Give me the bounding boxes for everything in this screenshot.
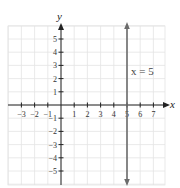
svg-text:−1: −1 xyxy=(48,114,57,123)
line-label: x = 5 xyxy=(131,65,154,77)
svg-text:4: 4 xyxy=(112,110,116,119)
y-axis-label: y xyxy=(56,10,62,22)
svg-text:−2: −2 xyxy=(48,127,57,136)
vertical-line-x-5 xyxy=(124,22,130,186)
svg-text:−2: −2 xyxy=(30,110,39,119)
svg-text:1: 1 xyxy=(72,110,76,119)
svg-text:4: 4 xyxy=(53,48,57,57)
x-axis-label: x xyxy=(169,98,175,110)
svg-text:−4: −4 xyxy=(48,154,57,163)
svg-text:5: 5 xyxy=(53,35,57,44)
svg-text:2: 2 xyxy=(85,110,89,119)
svg-text:7: 7 xyxy=(151,110,155,119)
svg-text:2: 2 xyxy=(53,75,57,84)
svg-text:3: 3 xyxy=(99,110,103,119)
svg-text:3: 3 xyxy=(53,61,57,70)
svg-text:1: 1 xyxy=(53,88,57,97)
coordinate-plane: −3−2−1123456754321−1−2−3−4−5 x y x = 5 xyxy=(0,0,180,188)
svg-text:6: 6 xyxy=(138,110,142,119)
svg-text:−5: −5 xyxy=(48,167,57,176)
svg-text:−3: −3 xyxy=(48,141,57,150)
svg-text:−3: −3 xyxy=(17,110,26,119)
axes xyxy=(8,23,170,185)
